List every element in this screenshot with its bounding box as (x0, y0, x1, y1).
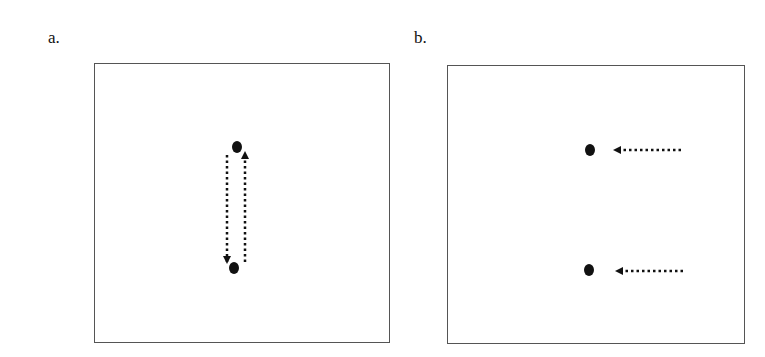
diagram-canvas (0, 0, 765, 357)
dot-icon (585, 144, 595, 156)
dot-icon (229, 262, 239, 274)
dot-icon (584, 264, 594, 276)
dot-icon (232, 141, 242, 153)
